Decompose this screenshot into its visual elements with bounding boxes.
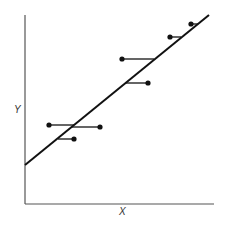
data-point <box>119 56 124 61</box>
regression-line <box>25 15 209 165</box>
y-axis-label: Y <box>14 104 21 115</box>
data-points <box>46 21 198 141</box>
data-point <box>46 122 51 127</box>
data-point <box>188 21 193 26</box>
regression-diagram <box>0 0 231 227</box>
data-point <box>167 34 172 39</box>
data-point <box>71 136 76 141</box>
data-point <box>145 80 150 85</box>
x-axis-label: X <box>119 206 126 217</box>
data-point <box>97 124 102 129</box>
